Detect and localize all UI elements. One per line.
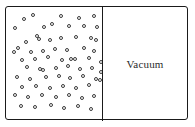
gas-molecule	[57, 74, 61, 78]
gas-molecule	[68, 76, 72, 80]
gas-molecule	[92, 14, 96, 18]
gas-molecule	[48, 86, 52, 90]
gas-molecule	[26, 95, 30, 99]
gas-molecule	[13, 26, 17, 30]
gas-molecule	[20, 58, 24, 62]
gas-molecule	[54, 66, 58, 70]
gas-molecule	[89, 107, 93, 111]
gas-molecule	[74, 35, 78, 39]
gas-molecule	[25, 65, 29, 69]
gas-molecule	[40, 93, 44, 97]
gas-molecule	[92, 94, 96, 98]
gas-molecule	[46, 55, 50, 59]
vacuum-label: Vacuum	[126, 58, 163, 70]
gas-molecule	[76, 104, 80, 108]
gas-molecule	[77, 16, 81, 20]
gas-molecule	[87, 83, 91, 87]
gas-molecule	[80, 96, 84, 100]
gas-molecule	[12, 50, 16, 54]
gas-molecule	[54, 95, 58, 99]
gas-molecule	[50, 22, 54, 26]
gas-molecule	[81, 74, 85, 78]
gas-molecule	[74, 86, 78, 90]
gas-molecule	[73, 57, 77, 61]
gas-molecule	[33, 57, 37, 61]
container-vessel: Vacuum	[5, 6, 188, 120]
gas-molecule	[61, 84, 65, 88]
gas-molecule	[62, 106, 66, 110]
gas-molecule	[31, 13, 35, 17]
gas-molecule	[92, 49, 96, 53]
gas-molecule	[59, 14, 63, 18]
gas-molecule	[28, 77, 32, 81]
gas-molecule	[90, 66, 94, 70]
gas-molecule	[49, 103, 53, 107]
gas-molecule	[67, 24, 71, 28]
gas-molecule	[16, 46, 20, 50]
gas-molecule	[94, 38, 98, 42]
gas-molecule	[19, 104, 23, 108]
diagram-root: Vacuum	[0, 0, 195, 127]
gas-molecule	[82, 24, 86, 28]
vacuum-chamber: Vacuum	[103, 7, 187, 121]
gas-molecule	[87, 56, 91, 60]
gas-molecule	[67, 93, 71, 97]
gas-molecule	[20, 85, 24, 89]
gas-molecule	[59, 36, 63, 40]
gas-molecule	[41, 68, 45, 72]
gas-molecule	[78, 67, 82, 71]
gas-molecule	[24, 40, 28, 44]
gas-chamber	[6, 7, 102, 121]
gas-molecule	[82, 46, 86, 50]
gas-molecule	[48, 38, 52, 42]
gas-molecule	[22, 17, 26, 21]
gas-molecule	[44, 75, 48, 79]
gas-molecule	[66, 64, 70, 68]
gas-molecule	[34, 84, 38, 88]
gas-molecule	[37, 37, 41, 41]
gas-molecule	[29, 50, 33, 54]
gas-molecule	[89, 36, 93, 40]
gas-molecule	[95, 25, 99, 29]
gas-molecule	[65, 48, 69, 52]
gas-molecule	[60, 58, 64, 62]
gas-molecule	[13, 93, 17, 97]
gas-molecule	[33, 105, 37, 109]
gas-molecule	[15, 75, 19, 79]
gas-molecule	[53, 47, 57, 51]
gas-molecule	[41, 49, 45, 53]
gas-molecule	[42, 25, 46, 29]
